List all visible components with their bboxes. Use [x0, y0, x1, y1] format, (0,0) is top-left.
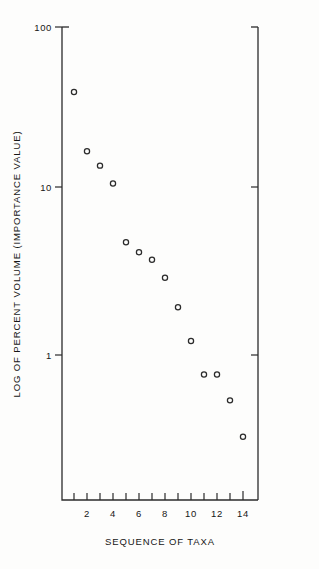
data-point — [240, 434, 245, 439]
y-axis-ticks — [55, 27, 258, 355]
x-tick-label-14: 14 — [237, 508, 249, 519]
data-point — [201, 372, 206, 377]
y-tick-label-100: 100 — [34, 22, 52, 33]
chart-figure: 100 10 1 2 4 6 8 10 12 — [0, 0, 319, 569]
y-tick-label-10: 10 — [40, 182, 52, 193]
plot-axes — [62, 27, 258, 500]
x-tick-label-2: 2 — [84, 508, 90, 519]
y-axis-tick-labels: 100 10 1 — [34, 22, 52, 361]
data-point — [227, 398, 232, 403]
x-axis-title: SEQUENCE OF TAXA — [105, 536, 215, 547]
x-tick-label-6: 6 — [136, 508, 142, 519]
y-tick-label-1: 1 — [46, 350, 52, 361]
x-axis-tick-labels: 2 4 6 8 10 12 14 — [84, 508, 249, 519]
data-point — [123, 240, 128, 245]
x-tick-label-4: 4 — [110, 508, 116, 519]
axis-left-bottom — [62, 27, 258, 500]
y-axis-title: LOG OF PERCENT VOLUME (IMPORTANCE VALUE) — [11, 130, 22, 397]
x-tick-label-10: 10 — [185, 508, 197, 519]
data-point — [162, 275, 167, 280]
data-point — [136, 250, 141, 255]
data-point — [97, 163, 102, 168]
data-point — [71, 89, 76, 94]
scatter-plot-svg: 100 10 1 2 4 6 8 10 12 — [0, 0, 319, 569]
data-point — [149, 257, 154, 262]
data-point — [175, 305, 180, 310]
x-tick-label-12: 12 — [211, 508, 223, 519]
data-point — [214, 372, 219, 377]
data-point-group — [71, 89, 245, 439]
x-axis-ticks — [74, 491, 243, 500]
data-point — [84, 149, 89, 154]
x-tick-label-8: 8 — [162, 508, 168, 519]
data-point — [188, 338, 193, 343]
data-point — [110, 181, 115, 186]
